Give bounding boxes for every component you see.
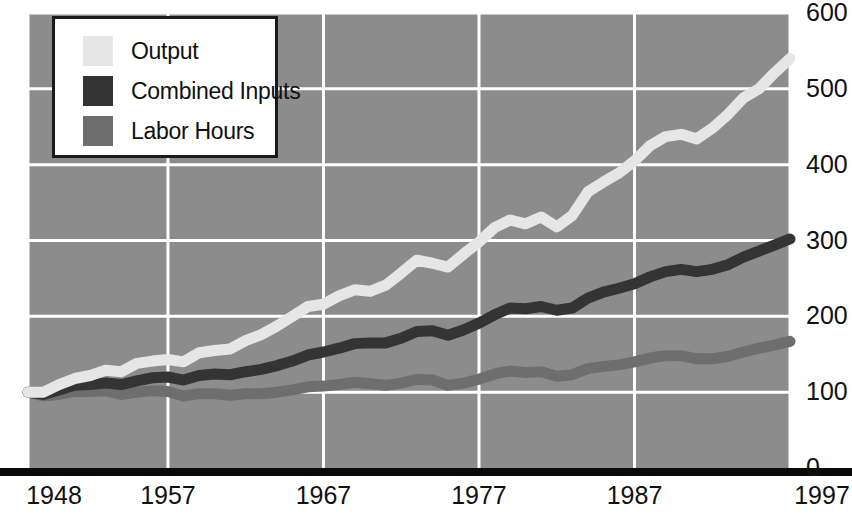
- x-tick-label-1997: 1997: [794, 483, 850, 508]
- y-tick-label-200: 200: [806, 303, 848, 328]
- chart-legend: Output Combined Inputs Labor Hours: [52, 16, 278, 158]
- x-tick-label-1987: 1987: [607, 483, 663, 508]
- legend-label-labor-hours: Labor Hours: [131, 120, 254, 143]
- y-tick-label-300: 300: [806, 228, 848, 253]
- legend-label-output: Output: [131, 40, 198, 63]
- y-tick-label-400: 400: [806, 152, 848, 177]
- legend-item-combined-inputs: Combined Inputs: [83, 71, 275, 111]
- x-tick-label-1957: 1957: [140, 483, 196, 508]
- y-tick-label-0: 0: [806, 455, 820, 480]
- x-tick-label-1977: 1977: [451, 483, 507, 508]
- legend-swatch-combined-inputs: [83, 76, 113, 106]
- legend-item-output: Output: [83, 31, 275, 71]
- x-tick-label-1967: 1967: [296, 483, 352, 508]
- x-axis-baseline: [0, 468, 852, 476]
- legend-label-combined-inputs: Combined Inputs: [131, 80, 300, 103]
- y-tick-label-600: 600: [806, 0, 848, 25]
- legend-swatch-labor-hours: [83, 116, 113, 146]
- legend-item-labor-hours: Labor Hours: [83, 111, 275, 151]
- legend-swatch-output: [83, 36, 113, 66]
- y-tick-label-500: 500: [806, 76, 848, 101]
- y-tick-label-100: 100: [806, 379, 848, 404]
- x-tick-label-1948: 1948: [26, 483, 82, 508]
- chart-container: Output Combined Inputs Labor Hours 60050…: [0, 0, 852, 524]
